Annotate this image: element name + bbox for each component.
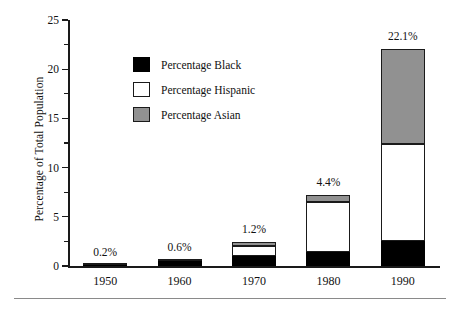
y-tick-minor <box>64 93 68 94</box>
y-tick-label: 15 <box>48 112 60 124</box>
bar-value-label: 0.6% <box>168 241 192 253</box>
bar-segment-percentage-hispanic[interactable] <box>83 263 127 265</box>
bar-segment-percentage-asian[interactable] <box>381 49 425 144</box>
legend-label-black: Percentage Black <box>161 59 241 71</box>
y-tick-minor <box>64 44 68 45</box>
legend-item-asian: Percentage Asian <box>133 102 255 127</box>
bar-group[interactable]: 1.2% <box>232 216 276 266</box>
x-tick-label: 1960 <box>140 274 220 289</box>
bar-segment-percentage-hispanic[interactable] <box>158 259 202 261</box>
y-tick-label: 25 <box>48 14 60 26</box>
y-tick-major <box>62 265 68 266</box>
legend-label-hispanic: Percentage Hispanic <box>161 84 255 96</box>
bar-value-label: 22.1% <box>388 30 418 42</box>
y-tick-major <box>62 19 68 20</box>
legend-item-black: Percentage Black <box>133 52 255 77</box>
white-swatch-icon <box>133 82 150 97</box>
x-axis-line <box>68 266 440 268</box>
bar-group[interactable]: 4.4% <box>306 169 350 266</box>
x-tick-label: 1950 <box>65 274 145 289</box>
gray-swatch-icon <box>133 107 150 122</box>
bar-value-label: 1.2% <box>242 223 266 235</box>
y-tick-label: 0 <box>53 260 59 272</box>
y-tick-major <box>62 118 68 119</box>
black-swatch-icon <box>133 57 150 72</box>
y-tick-label: 10 <box>48 162 60 174</box>
bar-segment-percentage-hispanic[interactable] <box>232 246 276 256</box>
y-axis-line <box>68 20 70 266</box>
x-tick-label: 1990 <box>363 274 443 289</box>
bar-segment-percentage-asian[interactable] <box>306 195 350 202</box>
y-tick-label: 20 <box>48 63 60 75</box>
bar-segment-percentage-hispanic[interactable] <box>306 202 350 252</box>
y-tick-major <box>62 69 68 70</box>
bottom-divider-rule <box>14 298 446 299</box>
bar-segment-percentage-black[interactable] <box>306 252 350 266</box>
bar-value-label: 4.4% <box>316 176 340 188</box>
bar-group[interactable]: 22.1% <box>381 23 425 266</box>
x-tick-label: 1980 <box>288 274 368 289</box>
y-tick-minor <box>64 142 68 143</box>
stacked-bar-chart: Percentage of Total Population 051015202… <box>0 0 459 311</box>
legend-item-hispanic: Percentage Hispanic <box>133 77 255 102</box>
bar-segment-percentage-hispanic[interactable] <box>381 144 425 241</box>
bar-group[interactable]: 0.2% <box>83 239 127 266</box>
bar-segment-percentage-black[interactable] <box>381 241 425 266</box>
chart-legend: Percentage Black Percentage Hispanic Per… <box>133 52 255 127</box>
bar-segment-percentage-asian[interactable] <box>232 242 276 246</box>
y-tick-label: 5 <box>53 211 59 223</box>
bar-group[interactable]: 0.6% <box>158 234 202 266</box>
y-tick-major <box>62 167 68 168</box>
bar-segment-percentage-black[interactable] <box>232 256 276 266</box>
y-tick-minor <box>64 241 68 242</box>
bar-segment-percentage-black[interactable] <box>158 261 202 266</box>
y-axis-title: Percentage of Total Population <box>33 24 45 274</box>
legend-label-asian: Percentage Asian <box>161 109 241 121</box>
bar-value-label: 0.2% <box>93 246 117 258</box>
y-tick-major <box>62 216 68 217</box>
y-tick-minor <box>64 192 68 193</box>
x-tick-label: 1970 <box>214 274 294 289</box>
